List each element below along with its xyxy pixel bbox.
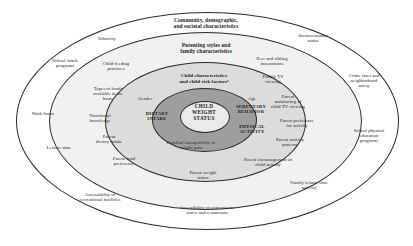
- domain-physical-activity: PHYSICAL ACTIVITY: [230, 124, 274, 134]
- family-factor-parent-food-preference: Parent food preference: [100, 156, 148, 166]
- core-child-weight-status: CHILD WEIGHT STATUS: [180, 104, 228, 122]
- domain-dietary-intake: DIETARY INTAKE: [137, 111, 177, 121]
- community-factor-ethnicity: Ethnicity: [90, 36, 124, 41]
- ring-heading-parenting: Parenting styles and family characterist…: [152, 42, 260, 54]
- community-factor-accessibility-convenience-stores: Accessibility of convenience stores and …: [153, 205, 261, 215]
- family-factor-child-feeding-practices: Child feeding practices: [92, 61, 140, 71]
- family-factor-parent-encouragement-activity: Parent encouragement of child activity: [229, 157, 307, 167]
- community-factor-leisure-time: Leisure time: [38, 145, 80, 150]
- family-factor-parent-weight-status: Parent weight status: [177, 170, 229, 180]
- family-factor-family-leisure-time-activity: Family leisure time activity: [281, 180, 337, 190]
- child-factor-familial-susceptibility: Familial susceptibility to weight gain: [149, 140, 233, 150]
- diagram-canvas: Community, demographic, and societal cha…: [0, 0, 413, 246]
- family-factor-types-of-foods-available: Types of foods available in the home: [82, 86, 134, 101]
- family-factor-parent-monitoring-tv: Parent monitoring of child TV viewing: [262, 94, 314, 109]
- family-factor-parent-activity-patterns: Parent activity patterns: [265, 137, 315, 147]
- family-factor-parent-preference-activity: Parent preference for activity: [269, 118, 325, 128]
- community-factor-crime-rates-safety: Crime rates and neighborhood safety: [336, 73, 392, 88]
- ring-heading-community: Community, demographic, and societal cha…: [142, 17, 270, 29]
- family-factor-family-tv-viewing: Family TV viewing: [252, 74, 294, 84]
- family-factor-nutritional-knowledge: Nutritional knowledge: [76, 113, 124, 123]
- child-factor-gender: Gender: [130, 96, 160, 101]
- community-factor-work-hours: Work hours: [22, 111, 64, 116]
- family-factor-peer-and-sibling-interactions: Peer and sibling interactions: [245, 56, 299, 66]
- community-factor-school-lunch-programs: School lunch programs: [41, 58, 89, 68]
- community-factor-school-physical-education: School physical education programs: [341, 128, 397, 143]
- child-factor-age: Age: [243, 96, 261, 101]
- community-factor-socioeconomic-status: Socioeconomic status: [288, 33, 338, 43]
- community-factor-accessibility-recreational: Accessibility of recreational facilities: [62, 192, 138, 202]
- family-factor-parent-dietary-intake: Parent dietary intake: [84, 134, 134, 144]
- ring-heading-child: Child characteristics and child risk fac…: [152, 73, 256, 84]
